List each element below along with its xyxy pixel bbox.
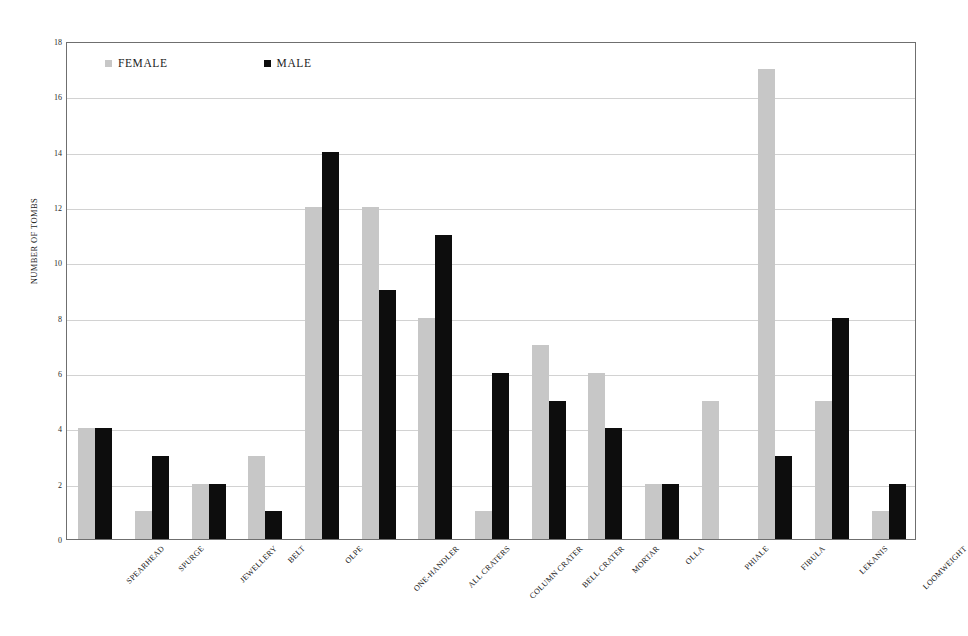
bar-group: [860, 43, 917, 539]
bar-male: [549, 401, 566, 539]
y-axis-tick-labels: 181614121086420: [32, 42, 62, 540]
bar-female: [872, 511, 889, 539]
bar-group: [180, 43, 237, 539]
x-axis-tick-label: BELL CRATER: [580, 544, 626, 590]
y-axis-tick-8: 8: [32, 314, 62, 323]
plot-area: FEMALEMALE: [66, 42, 916, 540]
bar-male: [889, 484, 906, 539]
x-axis-tick-label: ALL CRATERS: [467, 544, 513, 590]
bar-female: [362, 207, 379, 539]
bar-group: [634, 43, 691, 539]
bar-male: [379, 290, 396, 539]
bar-male: [605, 428, 622, 539]
bar-male: [435, 235, 452, 539]
bar-male: [832, 318, 849, 539]
bar-male: [95, 428, 112, 539]
bar-female: [475, 511, 492, 539]
bar-group: [464, 43, 521, 539]
x-axis-tick-label: SPURGE: [177, 544, 206, 573]
bar-female: [588, 373, 605, 539]
bar-female: [248, 456, 265, 539]
x-axis-tick-label: COLUMN CRATER: [528, 544, 585, 601]
y-axis-tick-18: 18: [32, 38, 62, 47]
bar-female: [192, 484, 209, 539]
bar-female: [532, 345, 549, 539]
x-axis-tick-label: FIBULA: [799, 544, 827, 572]
bar-male: [492, 373, 509, 539]
x-axis-tick-labels: SPEARHEADSPURGEJEWELLERYBELTOLPEONE-HAND…: [66, 544, 916, 636]
y-axis-tick-0: 0: [32, 536, 62, 545]
x-axis-tick-label: ONE-HANDLER: [411, 544, 460, 593]
y-axis-tick-16: 16: [32, 93, 62, 102]
bar-male: [775, 456, 792, 539]
x-axis-tick-label: BELT: [286, 544, 307, 565]
bar-group: [67, 43, 124, 539]
bar-group: [804, 43, 861, 539]
bar-group: [124, 43, 181, 539]
y-axis-tick-6: 6: [32, 370, 62, 379]
x-axis-tick-label: JEWELLERY: [238, 544, 279, 585]
y-axis-tick-4: 4: [32, 425, 62, 434]
bar-group: [294, 43, 351, 539]
bar-female: [702, 401, 719, 539]
x-axis-tick-label: OLPE: [343, 544, 364, 565]
bar-group: [577, 43, 634, 539]
y-axis-tick-14: 14: [32, 148, 62, 157]
bar-female: [305, 207, 322, 539]
bar-female: [815, 401, 832, 539]
x-axis-tick-label: LEKANIS: [858, 544, 890, 576]
bar-female: [418, 318, 435, 539]
bar-male: [152, 456, 169, 539]
bar-female: [135, 511, 152, 539]
x-axis-tick-label: PHIALE: [743, 544, 771, 572]
bar-male: [209, 484, 226, 539]
bar-male: [662, 484, 679, 539]
bar-group: [407, 43, 464, 539]
y-axis-tick-12: 12: [32, 204, 62, 213]
bar-female: [758, 69, 775, 539]
bar-group: [690, 43, 747, 539]
y-axis-tick-10: 10: [32, 259, 62, 268]
bar-male: [322, 152, 339, 539]
x-axis-tick-label: OLLA: [684, 544, 706, 566]
x-axis-tick-label: SPEARHEAD: [125, 544, 167, 586]
bar-male: [265, 511, 282, 539]
bar-group: [237, 43, 294, 539]
bar-group: [747, 43, 804, 539]
x-axis-tick-label: LOOMWEIGHT: [921, 544, 968, 591]
bar-female: [78, 428, 95, 539]
x-axis-tick-label: MORTAR: [631, 544, 662, 575]
bar-group: [520, 43, 577, 539]
bars-layer: [67, 43, 915, 539]
y-axis-tick-2: 2: [32, 480, 62, 489]
bar-female: [645, 484, 662, 539]
bar-group: [350, 43, 407, 539]
